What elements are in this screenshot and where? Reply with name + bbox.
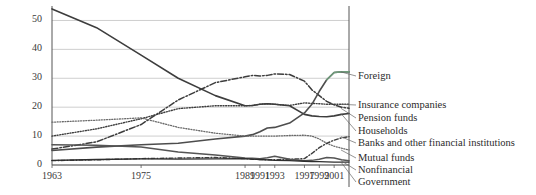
y-axis-tick-label: 20 [16, 100, 42, 111]
x-axis-tick-label: 2001 [312, 170, 356, 181]
x-axis-tick-label: 1975 [119, 170, 163, 181]
y-axis-tick-label: 30 [16, 71, 42, 82]
series-line [52, 9, 349, 117]
legend-label: Mutual funds [358, 152, 414, 163]
series-line [52, 74, 349, 149]
y-axis-tick-label: 40 [16, 42, 42, 53]
legend-label: Households [358, 125, 408, 136]
legend-label: Government [358, 176, 411, 187]
y-axis-tick-label: 50 [16, 13, 42, 24]
gridlines [52, 20, 349, 165]
legend-label: Foreign [358, 70, 391, 81]
data-series-layer [52, 9, 349, 162]
legend-label: Nonfinancial [358, 164, 413, 175]
legend-label: Pension funds [358, 112, 417, 123]
series-line [52, 103, 349, 136]
series-line [52, 72, 349, 151]
x-axis-tick-label: 1963 [30, 170, 74, 181]
y-axis-tick-label: 0 [16, 158, 42, 169]
legend-label: Banks and other financial institutions [358, 137, 515, 148]
legend-label: Insurance companies [358, 99, 446, 110]
y-axis-tick-label: 10 [16, 129, 42, 140]
chart-plot-area [0, 0, 536, 195]
line-chart: 01020304050 1963197519891991199319971999… [0, 0, 536, 195]
